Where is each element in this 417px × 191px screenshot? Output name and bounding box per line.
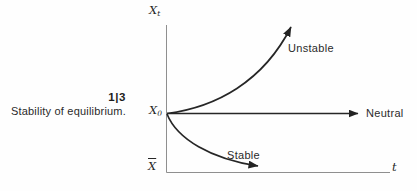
y-axis-label: Xt [149, 4, 160, 17]
plot-canvas [0, 0, 417, 191]
unstable-curve [167, 27, 291, 114]
origin-label: X0 [138, 104, 162, 117]
figure-stability-of-equilibrium: 1|3 Stability of equilibrium. Xt X0 X t … [0, 0, 417, 191]
t-axis-label: t [392, 161, 397, 174]
neutral-label: Neutral [366, 107, 404, 120]
stable-label: Stable [227, 149, 260, 162]
unstable-label: Unstable [288, 42, 334, 55]
x-bar-label: X [148, 160, 156, 173]
